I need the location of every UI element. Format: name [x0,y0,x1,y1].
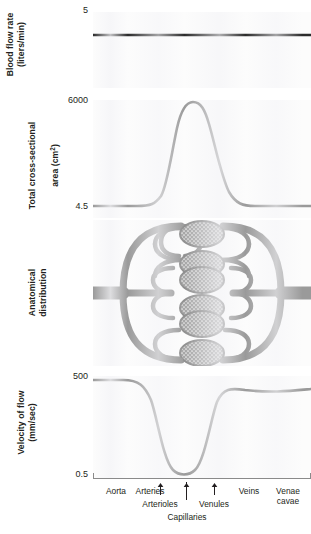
up-arrow-icon [210,483,219,495]
axis-title-anatomical-distribution: Anatomical distribution [27,246,48,340]
panel-anatomical-distribution: Anatomical distribution [0,218,311,366]
plot-total-cross-sectional-area [93,100,311,218]
arrow-marker-venules [210,483,219,495]
axis-title-cross-sectional-area: Total cross-sectional area (cm2) [16,105,61,225]
x-label-capillaries: Capillaries [158,513,216,523]
velocity-of-flow-curve [93,376,311,478]
x-label-arteries: Arteries [122,487,178,497]
ytick-label-6000: 6000 [68,96,88,105]
x-axis-left-cap [93,473,94,479]
x-axis-line [93,478,311,479]
ytick-label-0point5: 0.5 [75,470,88,479]
plot-blood-flow-rate [93,12,311,88]
capillary-bed [180,311,224,337]
ytick-label-500: 500 [73,372,88,381]
blood-flow-rate-curve [93,12,311,88]
x-label-venules: Venules [192,500,236,510]
panel-velocity-of-flow: Velocity of flow (mm/sec) 500 0.5 [0,366,311,478]
blood-flow-figure: Blood flow rate (liters/min) 5 Total cro… [0,0,311,534]
axis-title-blood-flow-rate: Blood flow rate (liters/min) [5,7,26,83]
plot-anatomical-distribution [93,220,311,366]
plot-velocity-of-flow [93,376,311,478]
panel-total-cross-sectional-area: Total cross-sectional area (cm2) 6000 4.… [0,88,311,218]
capillary-bed [180,340,224,366]
panel-blood-flow-rate: Blood flow rate (liters/min) 5 [0,0,311,88]
ytick-label-4point5: 4.5 [75,202,88,211]
x-label-venae-cavae: Venae cavae [266,487,310,506]
capillary-bed [180,221,224,247]
x-label-veins: Veins [228,487,270,497]
anatomical-distribution-diagram [93,220,311,366]
capillaries-leader-line [186,482,187,500]
axis-title-velocity-of-flow: Velocity of flow (mm/sec) [16,375,37,471]
cross-sectional-area-curve [93,100,311,218]
capillary-bed [180,267,224,293]
x-label-arterioles: Arterioles [134,500,186,510]
x-axis-right-cap [310,473,311,479]
ytick-label-5: 5 [83,6,88,15]
